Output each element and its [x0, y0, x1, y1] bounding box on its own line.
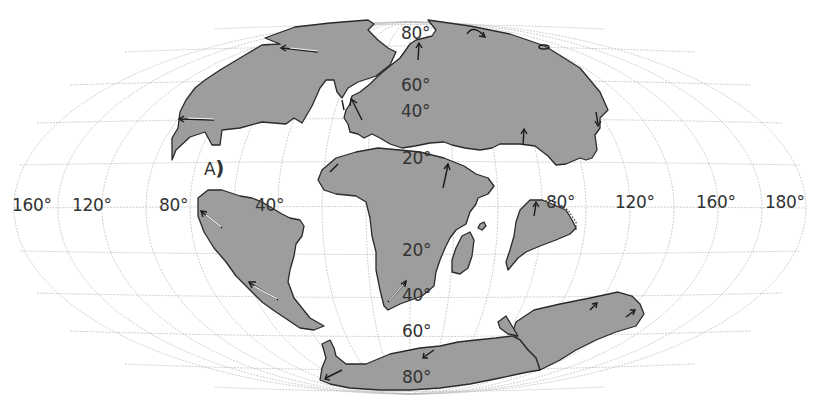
longitude-label-160w: 160°: [12, 197, 52, 214]
longitude-label-80e: 80°: [546, 194, 575, 211]
latitude-label-20n: 20°: [402, 150, 431, 167]
longitude-label-80w: 80°: [159, 197, 188, 214]
arrow-icon: [342, 100, 344, 110]
longitude-label-40w: 40°: [255, 197, 284, 214]
annotation-label-a: A): [204, 158, 224, 178]
longitude-label-120e: 120°: [615, 194, 655, 211]
landmass-islet: [478, 222, 486, 230]
landmass-madagascar: [452, 232, 474, 274]
latitude-label-60n: 60°: [401, 77, 430, 94]
annotation-letter: A: [204, 159, 215, 179]
latitude-label-80n: 80°: [401, 25, 430, 42]
longitude-label-120w: 120°: [72, 197, 112, 214]
latitude-label-40s: 40°: [402, 287, 431, 304]
latitude-label-20s: 20°: [402, 242, 431, 259]
latitude-label-40n: 40°: [401, 103, 430, 120]
longitude-label-160e: 160°: [696, 194, 736, 211]
annotation-paren: ): [215, 156, 224, 180]
latitude-label-80s: 80°: [402, 369, 431, 386]
longitude-label-180: 180°: [765, 194, 805, 211]
latitude-label-60s: 60°: [402, 323, 431, 340]
